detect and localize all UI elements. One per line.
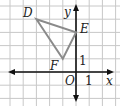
x-axis-label: x bbox=[106, 74, 113, 88]
origin-label: O bbox=[65, 74, 75, 88]
vertex-label-f: F bbox=[49, 59, 59, 73]
y-axis-label: y bbox=[63, 5, 71, 19]
y-tick-label: 1 bbox=[79, 54, 87, 68]
vertex-label-e: E bbox=[79, 22, 89, 36]
coordinate-plane: D E F y x O 1 1 bbox=[0, 0, 120, 106]
x-tick-label: 1 bbox=[85, 74, 93, 88]
vertex-label-d: D bbox=[22, 6, 33, 20]
triangle-def bbox=[36, 19, 76, 59]
